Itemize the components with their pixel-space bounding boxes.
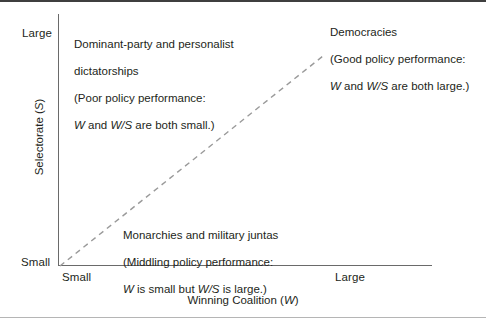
annotation-dictatorships-line3: (Poor policy performance: xyxy=(74,92,284,106)
annotation-dictatorships-line2: dictatorships xyxy=(74,65,284,79)
annotation-democracies-line3: W and W/S are both large.) xyxy=(330,80,486,94)
x-axis-tick-large: Large xyxy=(335,271,365,283)
annotation-dictatorships-line1: Dominant-party and personalist xyxy=(74,38,284,52)
y-axis-tick-large: Large xyxy=(22,27,52,39)
y-axis-title: Selectorate (S) xyxy=(33,77,45,197)
annotation-democracies-conj: and xyxy=(341,80,367,92)
annotation-monarchies-conj: is small but xyxy=(134,283,198,295)
y-axis-title-variable: S xyxy=(33,102,45,110)
annotation-dictatorships-line4: W and W/S are both small.) xyxy=(74,119,284,133)
y-axis-line xyxy=(58,14,59,266)
y-axis-tick-small: Small xyxy=(21,256,50,268)
annotation-monarchies-line3: W is small but W/S is large.) xyxy=(123,283,323,297)
annotation-democracies-var-ws: W/S xyxy=(366,80,388,92)
annotation-dictatorships: Dominant-party and personalist dictators… xyxy=(74,24,284,146)
annotation-democracies-line1: Democracies xyxy=(330,26,486,40)
annotation-monarchies: Monarchies and military juntas (Middling… xyxy=(123,215,323,310)
y-axis-title-tail: ) xyxy=(33,99,45,103)
annotation-democracies-line2: (Good policy performance: xyxy=(330,53,486,67)
annotation-monarchies-line2: (Middling policy performance: xyxy=(123,256,323,270)
annotation-democracies: Democracies (Good policy performance: W … xyxy=(330,12,486,107)
y-axis-title-text: Selectorate ( xyxy=(33,110,45,175)
annotation-dictatorships-conj: and xyxy=(85,119,111,131)
annotation-democracies-var-w: W xyxy=(330,80,341,92)
annotation-monarchies-tail: is large.) xyxy=(220,283,267,295)
annotation-monarchies-var-ws: W/S xyxy=(198,283,220,295)
figure-bottom-rule xyxy=(0,317,486,318)
x-axis-tick-small: Small xyxy=(62,271,91,283)
annotation-dictatorships-var-w: W xyxy=(74,119,85,131)
figure-top-rule xyxy=(0,0,486,2)
annotation-dictatorships-var-ws: W/S xyxy=(110,119,132,131)
annotation-monarchies-var-w: W xyxy=(123,283,134,295)
annotation-democracies-tail: are both large.) xyxy=(388,80,469,92)
figure-container: Large Small Small Large Selectorate (S) … xyxy=(0,0,486,332)
annotation-dictatorships-tail: are both small.) xyxy=(132,119,214,131)
annotation-monarchies-line1: Monarchies and military juntas xyxy=(123,229,323,243)
